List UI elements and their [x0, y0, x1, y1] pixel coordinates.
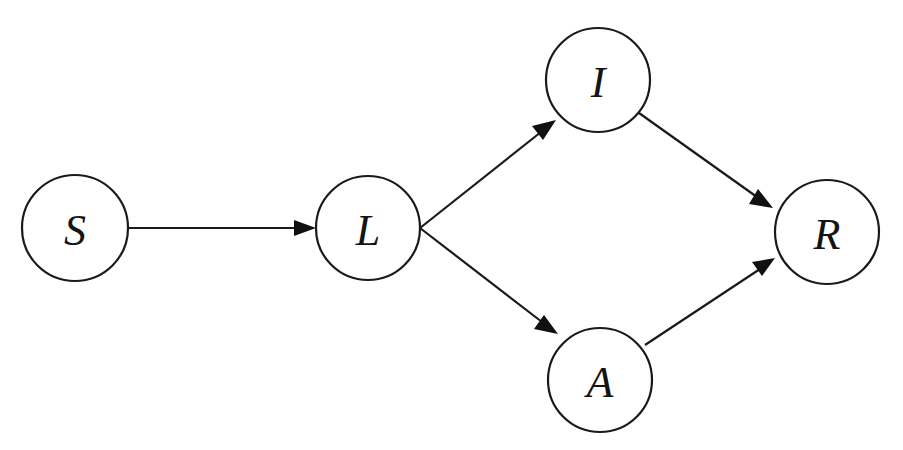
- node-a[interactable]: A: [548, 328, 652, 432]
- node-group: S L I A R: [22, 28, 879, 432]
- node-r[interactable]: R: [775, 180, 879, 284]
- edge-s-to-l-arrowhead: [294, 220, 316, 236]
- node-a-label: A: [584, 358, 615, 407]
- node-s-label: S: [64, 206, 86, 255]
- edge-i-to-r[interactable]: [639, 113, 773, 208]
- edge-s-to-l[interactable]: [128, 220, 316, 236]
- edge-a-to-r[interactable]: [645, 258, 775, 345]
- edge-l-to-i[interactable]: [420, 120, 556, 228]
- node-i[interactable]: I: [546, 28, 650, 132]
- edge-i-to-r-arrowhead: [749, 189, 773, 208]
- edge-l-to-a-line: [420, 228, 542, 322]
- edge-l-to-a[interactable]: [420, 228, 558, 334]
- edge-i-to-r-line: [639, 113, 757, 197]
- edge-group: [128, 113, 775, 345]
- node-i-label: I: [590, 58, 608, 107]
- edge-a-to-r-line: [645, 269, 760, 345]
- node-l-label: L: [355, 206, 380, 255]
- node-s[interactable]: S: [22, 175, 128, 281]
- edge-l-to-i-line: [420, 132, 541, 228]
- node-r-label: R: [813, 210, 841, 259]
- node-l[interactable]: L: [316, 176, 420, 280]
- diagram-canvas: S L I A R: [0, 0, 903, 450]
- diagram-svg: S L I A R: [0, 0, 903, 450]
